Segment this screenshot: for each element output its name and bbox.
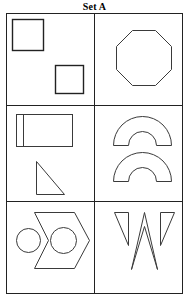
left-wedge — [115, 213, 129, 246]
center-peak — [132, 213, 158, 270]
cell-r3c2 — [115, 213, 175, 270]
arch-lower — [114, 153, 172, 182]
octagon — [117, 31, 172, 86]
right-triangle — [37, 162, 65, 195]
arch-upper — [114, 117, 172, 146]
left-circle — [17, 229, 41, 253]
inner-circle — [51, 228, 77, 254]
small-square — [56, 66, 84, 94]
cell-r1c2 — [117, 31, 172, 86]
cell-r3c1 — [17, 213, 90, 269]
cell-r2c2 — [114, 117, 172, 182]
right-wedge — [161, 213, 175, 246]
shape-set-canvas — [0, 0, 189, 302]
cell-r2c1 — [17, 115, 73, 195]
figure-root: Set A — [0, 0, 189, 302]
large-square — [13, 20, 44, 51]
cell-r1c1 — [13, 20, 84, 94]
chevron-hexagon — [35, 213, 90, 269]
divided-rectangle — [17, 115, 73, 147]
